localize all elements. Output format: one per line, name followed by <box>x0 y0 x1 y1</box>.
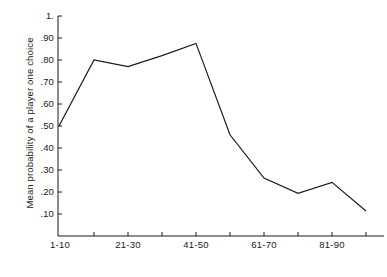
y-axis-ticks <box>58 16 62 214</box>
x-axis-ticks <box>94 232 366 236</box>
data-series-line <box>59 43 366 211</box>
chart-figure: Mean probability of a player one choice … <box>0 0 387 277</box>
plot-area <box>0 0 387 277</box>
